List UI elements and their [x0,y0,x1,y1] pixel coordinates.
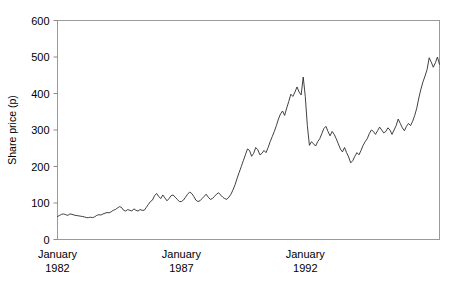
x-tick-label-month: January [162,248,202,260]
series-group [58,57,440,218]
share-price-line [58,57,440,218]
y-tick-label: 500 [31,51,49,63]
x-tick-label-year: 1982 [45,262,69,274]
y-tick-label: 200 [31,161,49,173]
x-tick-label-year: 1992 [293,262,317,274]
y-tick-label: 400 [31,88,49,100]
y-axis-ticks [54,21,58,240]
y-axis-title-group: Share price (p) [6,95,18,164]
y-tick-label: 0 [43,234,49,246]
x-axis-tick-labels: January1982January1987January1992 [38,248,325,274]
x-tick-label-month: January [286,248,326,260]
y-tick-label: 600 [31,15,49,27]
x-tick-label-year: 1987 [169,262,193,274]
chart-canvas: 0100200300400500600 January1982January19… [0,0,456,291]
y-tick-label: 300 [31,124,49,136]
y-axis-tick-labels: 0100200300400500600 [31,15,49,246]
y-tick-label: 100 [31,197,49,209]
y-axis-title: Share price (p) [6,95,18,164]
share-price-chart: 0100200300400500600 January1982January19… [0,0,456,291]
x-tick-label-month: January [38,248,78,260]
